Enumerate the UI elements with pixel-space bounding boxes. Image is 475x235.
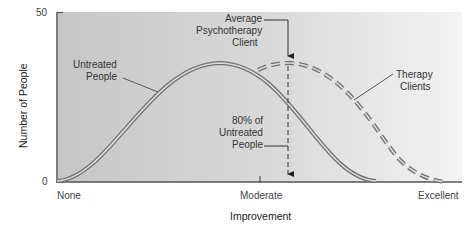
annotation-average-line1: Average xyxy=(225,13,263,24)
annotation-pct-line1: 80% of xyxy=(232,115,263,126)
annotation-pct-line3: People xyxy=(232,139,264,150)
annotation-therapy-line1: Therapy xyxy=(396,69,433,80)
annotation-average-line3: Client xyxy=(232,37,258,48)
annotation-untreated-line1: Untreated xyxy=(73,59,117,70)
x-tick-none: None xyxy=(57,190,81,201)
annotation-average-line2: Psychotherapy xyxy=(196,25,262,36)
figure: 50 0 Number of People None Moderate Exce… xyxy=(0,0,475,235)
annotation-pct-line2: Untreated xyxy=(219,127,263,138)
plot-area xyxy=(56,12,462,182)
x-axis-label: Improvement xyxy=(230,210,291,222)
y-axis-label: Number of People xyxy=(17,63,29,148)
annotation-untreated-line2: People xyxy=(86,71,118,82)
y-tick-0: 0 xyxy=(42,176,48,187)
x-tick-moderate: Moderate xyxy=(240,190,283,201)
annotation-therapy-line2: Clients xyxy=(400,81,431,92)
y-tick-50: 50 xyxy=(36,7,48,18)
x-tick-excellent: Excellent xyxy=(418,190,459,201)
